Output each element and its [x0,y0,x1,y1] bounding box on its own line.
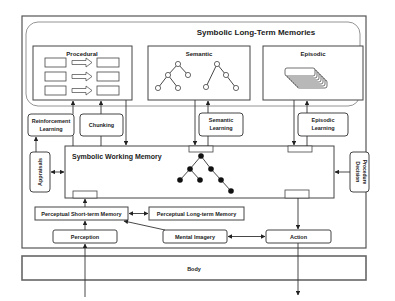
svg-text:Learning: Learning [311,125,334,131]
svg-text:Perceptual Long-term Memory: Perceptual Long-term Memory [157,211,237,217]
episodic-buffer [288,146,312,152]
reinforcement-learning-box: Reinforcement Learning [28,114,74,136]
svg-text:Appraisals: Appraisals [37,158,43,186]
procedural-label: Procedural [66,51,98,57]
svg-text:Chunking: Chunking [89,122,114,128]
svg-text:Mental Imagery: Mental Imagery [175,234,216,240]
semantic-learning-box: Semantic Learning [199,113,243,136]
svg-text:Learning: Learning [209,125,232,131]
semantic-memory-box: Semantic [148,46,250,100]
soar-architecture-diagram: Symbolic Long-Term Memories Procedural S… [0,0,395,301]
episodic-memory-box: Episodic [263,46,363,100]
motor-buffer [285,190,309,198]
chunking-box: Chunking [80,114,123,136]
working-memory-box: Symbolic Working Memory [65,146,334,198]
production-rules-icon [45,58,119,95]
svg-text:Reinforcement: Reinforcement [32,118,71,124]
perceptual-buffer [73,191,97,198]
svg-text:Body: Body [187,266,202,272]
mental-imagery-box: Mental Imagery [163,230,227,243]
decision-procedure-box: Decision Procedure [350,152,369,192]
body-box: Body [22,256,366,280]
episodic-label: Episodic [300,51,326,57]
perceptual-long-term-memory-box: Perceptual Long-term Memory [149,207,244,220]
svg-text:Procedure: Procedure [362,160,368,185]
svg-text:Decision: Decision [355,162,361,183]
episodic-learning-box: Episodic Learning [298,113,348,136]
perception-box: Perception [53,230,117,243]
semantic-label: Semantic [186,51,213,57]
svg-text:Perceptual Short-term Memory: Perceptual Short-term Memory [41,211,122,217]
perceptual-short-term-memory-box: Perceptual Short-term Memory [35,207,128,220]
svg-text:Episodic: Episodic [312,117,335,123]
appraisals-box: Appraisals [30,152,50,192]
svg-text:Semantic: Semantic [209,117,233,123]
svg-text:Learning: Learning [39,126,62,132]
svg-text:Perception: Perception [71,234,100,240]
svg-text:Action: Action [290,234,308,240]
action-box: Action [266,230,331,243]
procedural-memory-box: Procedural [33,46,132,100]
working-memory-label: Symbolic Working Memory [72,153,162,161]
semantic-buffer [189,146,213,152]
long-term-memories-title: Symbolic Long-Term Memories [197,28,316,37]
